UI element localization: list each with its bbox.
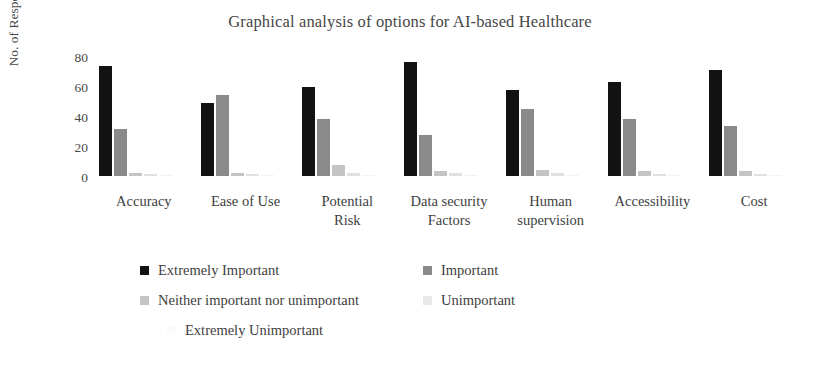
bar-group xyxy=(93,46,195,176)
bar xyxy=(144,174,157,176)
bar xyxy=(246,174,259,176)
legend-item[interactable]: Unimportant xyxy=(423,293,515,308)
x-axis-label: Cost xyxy=(703,192,805,211)
x-axis-category-labels: AccuracyEase of UsePotentialRiskData sec… xyxy=(93,192,805,240)
bar xyxy=(506,90,519,176)
x-axis-label: Humansupervision xyxy=(500,192,602,230)
y-tick-label: 20 xyxy=(75,141,89,155)
bar-group xyxy=(500,46,602,176)
bar xyxy=(404,62,417,176)
bar-group xyxy=(398,46,500,176)
bar xyxy=(201,103,214,176)
legend-label: Extremely Unimportant xyxy=(185,323,323,338)
x-axis-label-line: supervision xyxy=(500,211,602,230)
bar-group xyxy=(195,46,297,176)
x-axis-label-line: Ease of Use xyxy=(195,192,297,211)
bar xyxy=(347,173,360,176)
chart-title: Graphical analysis of options for AI-bas… xyxy=(0,12,820,32)
x-axis-label: Data securityFactors xyxy=(398,192,500,230)
legend-swatch-icon xyxy=(423,266,432,275)
x-axis-label: Ease of Use xyxy=(195,192,297,211)
bar-group xyxy=(602,46,704,176)
x-axis-label: Accessibility xyxy=(602,192,704,211)
bar xyxy=(129,173,142,176)
bar xyxy=(739,171,752,176)
legend-label: Extremely Important xyxy=(158,263,279,278)
x-axis-label-line: Accessibility xyxy=(602,192,704,211)
bar xyxy=(769,175,782,176)
bar xyxy=(159,175,172,176)
bar xyxy=(449,173,462,176)
legend-row: Neither important nor unimportantUnimpor… xyxy=(140,293,700,323)
x-axis-label-line: Human xyxy=(500,192,602,211)
legend-label: Neither important nor unimportant xyxy=(158,293,359,308)
bar xyxy=(317,119,330,176)
legend-swatch-icon xyxy=(140,296,149,305)
legend-label: Unimportant xyxy=(441,293,515,308)
legend-item[interactable]: Important xyxy=(423,263,498,278)
x-axis-label-line: Risk xyxy=(296,211,398,230)
x-axis-label-line: Factors xyxy=(398,211,500,230)
bar xyxy=(724,126,737,176)
y-axis-title: No. of Respondents xyxy=(6,0,32,78)
bar xyxy=(608,82,621,176)
legend-item[interactable]: Extremely Unimportant xyxy=(167,323,323,338)
x-axis-label-line: Potential xyxy=(296,192,398,211)
legend-swatch-icon xyxy=(167,326,176,335)
x-axis-label-line: Cost xyxy=(703,192,805,211)
y-tick-label: 80 xyxy=(75,51,89,65)
plot-area xyxy=(93,46,805,176)
x-axis-label: Accuracy xyxy=(93,192,195,211)
bar xyxy=(332,165,345,176)
bar xyxy=(419,135,432,176)
legend-swatch-icon xyxy=(140,266,149,275)
bar xyxy=(638,171,651,176)
x-axis-label: PotentialRisk xyxy=(296,192,398,230)
bar xyxy=(464,175,477,176)
bar xyxy=(754,174,767,176)
bar xyxy=(261,175,274,176)
legend-row: Extremely ImportantImportant xyxy=(140,263,700,293)
legend-swatch-icon xyxy=(423,296,432,305)
bar xyxy=(99,66,112,177)
bar xyxy=(302,87,315,176)
bar xyxy=(709,70,722,176)
bar xyxy=(551,173,564,176)
legend-row: Extremely Unimportant xyxy=(140,323,700,353)
y-tick-label: 40 xyxy=(75,111,89,125)
y-tick-label: 60 xyxy=(75,81,89,95)
bar xyxy=(653,174,666,176)
bar xyxy=(231,173,244,176)
bar xyxy=(668,175,681,176)
bar xyxy=(566,175,579,176)
bar xyxy=(623,119,636,176)
bar xyxy=(536,170,549,177)
bar-group xyxy=(703,46,805,176)
bar-group xyxy=(296,46,398,176)
legend-label: Important xyxy=(441,263,498,278)
x-axis-label-line: Data security xyxy=(398,192,500,211)
bar xyxy=(521,109,534,176)
chart-legend: Extremely ImportantImportantNeither impo… xyxy=(140,263,700,353)
legend-item[interactable]: Neither important nor unimportant xyxy=(140,293,359,308)
legend-item[interactable]: Extremely Important xyxy=(140,263,279,278)
bar xyxy=(216,95,229,176)
y-tick-label: 0 xyxy=(81,171,88,185)
x-axis-label-line: Accuracy xyxy=(93,192,195,211)
y-axis-tick-labels: 806040200 xyxy=(52,46,88,186)
bar xyxy=(362,175,375,176)
bar xyxy=(434,171,447,176)
bar xyxy=(114,129,127,176)
chart-container: Graphical analysis of options for AI-bas… xyxy=(0,0,820,381)
